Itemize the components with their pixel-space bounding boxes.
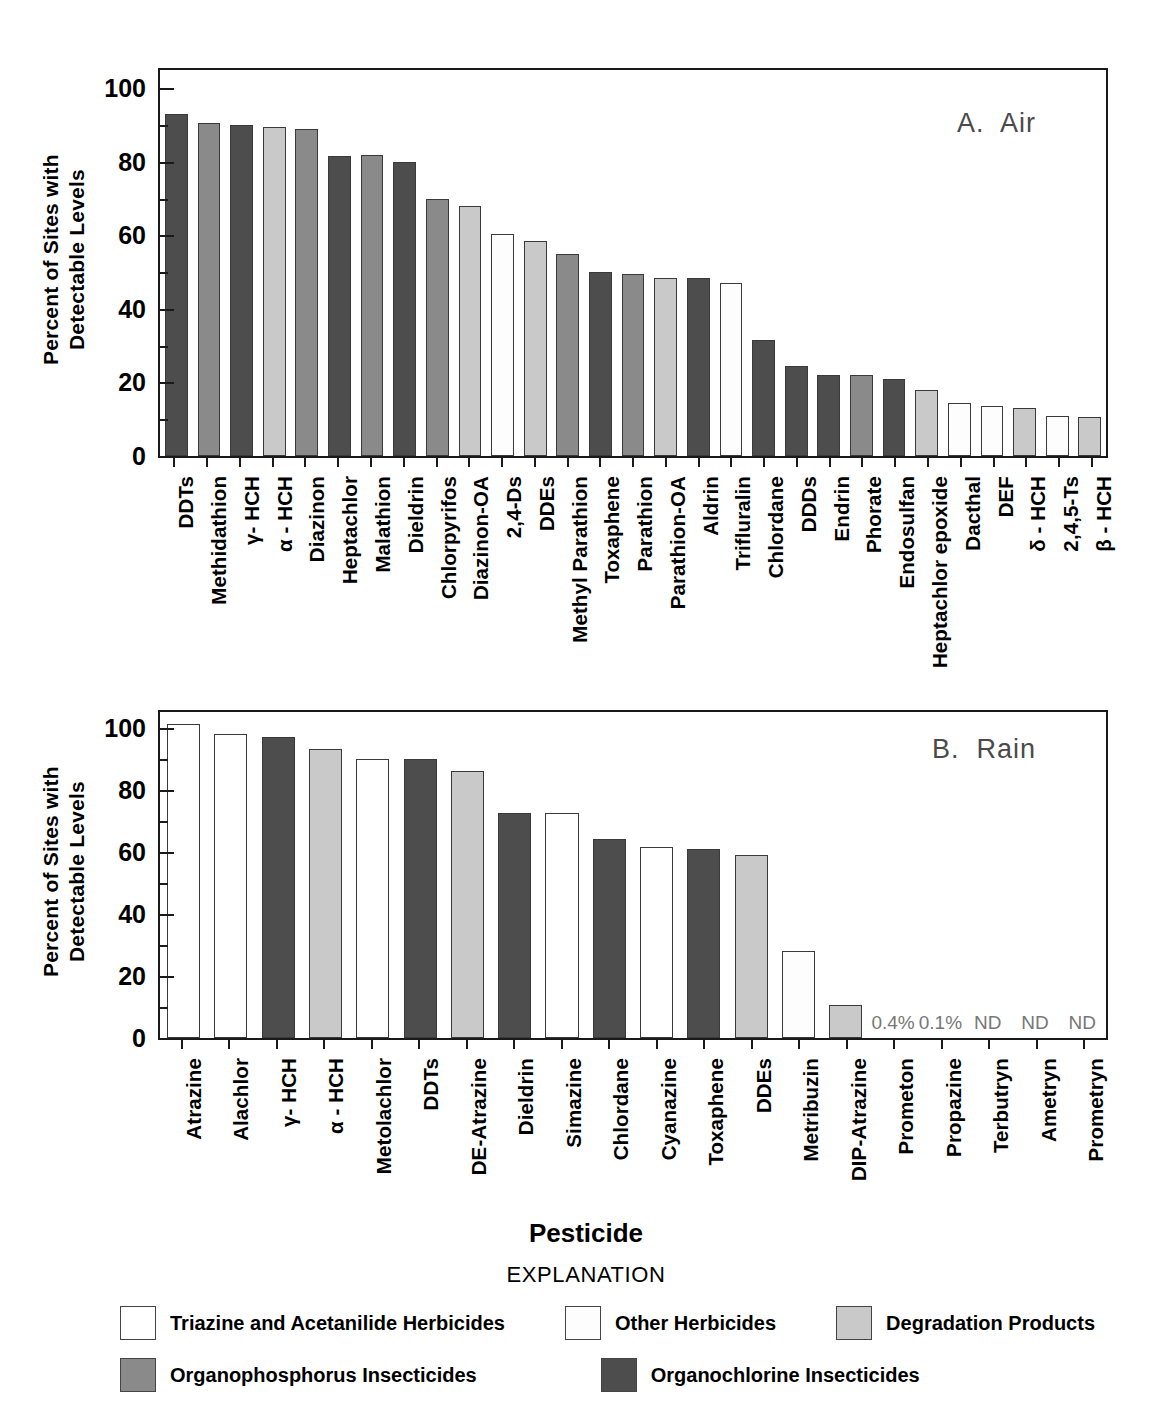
x-tick <box>682 458 715 467</box>
x-axis-category-label: Dieldrin <box>514 1058 538 1135</box>
bar-slot <box>323 70 356 456</box>
y-axis-tick-label: 100 <box>82 74 146 103</box>
x-tick <box>551 458 584 467</box>
x-axis-category-label: DDEs <box>535 476 559 531</box>
x-tick <box>912 458 945 467</box>
x-axis-category-label: DEF <box>994 476 1018 517</box>
bar-slot <box>207 712 254 1038</box>
legend-label-triazine: Triazine and Acetanilide Herbicides <box>170 1312 505 1335</box>
x-axis-category-label: Parathion <box>633 476 657 571</box>
bar-slot <box>1074 70 1107 456</box>
bar <box>752 340 775 456</box>
y-axis-tick-label: 100 <box>82 713 146 742</box>
legend-item-oc: Organochlorine Insecticides <box>601 1358 920 1392</box>
bar-slot <box>291 70 324 456</box>
bar <box>948 403 971 456</box>
y-axis-tick-label: 0 <box>82 1024 146 1053</box>
x-tick <box>871 1040 919 1049</box>
x-tick <box>1061 1040 1109 1049</box>
x-axis-category-label: Heptachlor <box>338 476 362 584</box>
chart-panel-air: Percent of Sites with Detectable Levels … <box>0 40 1172 680</box>
x-axis-ticks-rain <box>158 1040 1108 1049</box>
legend-item-otherherb: Other Herbicides <box>565 1306 776 1340</box>
bar-slot <box>258 70 291 456</box>
bar <box>556 254 579 456</box>
bar <box>1013 408 1036 456</box>
x-axis-category-label: α - HCH <box>324 1058 348 1134</box>
y-axis-tick <box>160 382 174 384</box>
x-tick <box>191 458 224 467</box>
x-tick <box>781 458 814 467</box>
x-tick <box>420 458 453 467</box>
bar <box>1078 417 1101 456</box>
x-axis-category-label: Endrin <box>830 476 854 542</box>
y-axis-minor-tick <box>160 419 168 421</box>
y-axis-tick <box>160 309 174 311</box>
bar-slot <box>780 70 813 456</box>
bar-slot <box>747 70 780 456</box>
y-axis-tick-label: 20 <box>82 368 146 397</box>
legend-swatch-otherherb <box>565 1306 601 1340</box>
bar <box>426 199 449 456</box>
bar-slot <box>617 70 650 456</box>
bar <box>214 734 247 1038</box>
bar-slot <box>486 70 519 456</box>
bar <box>198 123 221 456</box>
x-axis-category-label: Methidathion <box>207 476 231 605</box>
x-axis-category-label: β - HCH <box>1092 476 1116 552</box>
x-tick <box>715 458 748 467</box>
x-axis-category-label: Aldrin <box>699 476 723 536</box>
y-axis-minor-tick <box>160 759 168 761</box>
bar-slot <box>444 712 491 1038</box>
bar-slot <box>943 70 976 456</box>
legend-swatch-op <box>120 1358 156 1392</box>
bar-slot <box>976 70 1009 456</box>
bar-slot <box>728 712 775 1038</box>
bar-annotation: 0.1% <box>919 1012 962 1034</box>
bar-slot <box>649 70 682 456</box>
x-tick <box>289 458 322 467</box>
x-axis-ticks-air <box>158 458 1108 467</box>
bar-slot <box>193 70 226 456</box>
x-axis-category-label: Simazine <box>562 1058 586 1148</box>
x-tick <box>348 1040 396 1049</box>
x-axis-category-label: Dacthal <box>961 476 985 551</box>
bar <box>622 274 645 456</box>
x-axis-category-label: Malathion <box>371 476 395 573</box>
legend-label-otherherb: Other Herbicides <box>615 1312 776 1335</box>
bar-slot <box>586 712 633 1038</box>
y-axis-tick <box>160 88 174 90</box>
bar-slot <box>1008 70 1041 456</box>
bar <box>230 125 253 456</box>
x-tick <box>518 458 551 467</box>
x-axis-category-label: Phorate <box>862 476 886 553</box>
bar-slot <box>682 70 715 456</box>
x-tick <box>1075 458 1108 467</box>
y-axis-minor-tick <box>160 125 168 127</box>
bar-slot <box>225 70 258 456</box>
x-axis-category-label: γ- HCH <box>240 476 264 545</box>
y-axis-tick-label: 40 <box>82 294 146 323</box>
bar <box>589 272 612 456</box>
bar <box>654 278 677 456</box>
x-axis-category-label: α - HCH <box>273 476 297 552</box>
y-axis-tick <box>160 852 174 854</box>
bar <box>491 234 514 456</box>
x-axis-category-label: Toxaphene <box>600 476 624 584</box>
x-tick <box>491 1040 539 1049</box>
x-axis-category-label: Metribuzin <box>799 1058 823 1162</box>
x-axis-category-label: Toxaphene <box>704 1058 728 1166</box>
x-tick <box>586 1040 634 1049</box>
y-axis-tick-label: 60 <box>82 221 146 250</box>
x-axis-category-label: DDTs <box>419 1058 443 1110</box>
bar-annotation: ND <box>974 1012 1001 1034</box>
bar <box>735 855 768 1038</box>
y-axis-tick-label: 60 <box>82 837 146 866</box>
x-tick <box>301 1040 349 1049</box>
bar-slot <box>775 712 822 1038</box>
legend-item-op: Organophosphorus Insecticides <box>120 1358 477 1392</box>
y-axis-minor-tick <box>160 883 168 885</box>
bar <box>498 813 531 1038</box>
legend-label-oc: Organochlorine Insecticides <box>651 1364 920 1387</box>
bar <box>915 390 938 456</box>
